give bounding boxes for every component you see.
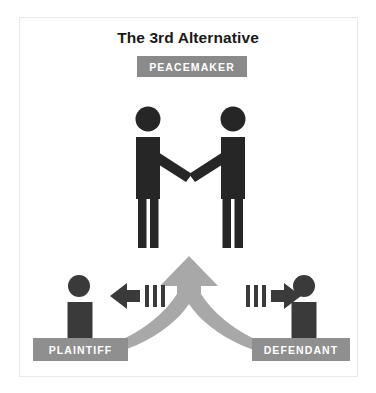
right-motion-line-1 xyxy=(246,285,250,307)
third-alternative-diagram: The 3rd Alternative PEACEMAKER xyxy=(0,0,376,393)
handshake-left-head xyxy=(136,107,161,132)
right-motion-line-2 xyxy=(254,285,258,307)
plaintiff-figure xyxy=(67,275,93,341)
handshake-figures-illustration xyxy=(118,100,263,252)
page-title: The 3rd Alternative xyxy=(0,29,376,47)
left-direction-arrow-icon xyxy=(110,281,166,311)
left-motion-line-3 xyxy=(161,285,165,307)
handshake-right-leg-far xyxy=(235,199,244,248)
right-motion-line-3 xyxy=(262,285,266,307)
handshake-right-leg-near xyxy=(223,199,232,248)
left-motion-line-2 xyxy=(153,285,157,307)
handshake-left-leg-far xyxy=(138,199,147,248)
plaintiff-head xyxy=(68,275,90,297)
plaintiff-body xyxy=(68,302,93,341)
defendant-label: DEFENDANT xyxy=(252,338,350,361)
handshake-left-leg-near xyxy=(150,199,159,248)
plaintiff-label: PLAINTIFF xyxy=(33,338,128,361)
right-direction-arrow-icon xyxy=(245,281,301,311)
right-arrowhead xyxy=(271,283,301,309)
handshake-left-torso xyxy=(136,137,160,199)
handshake-right-head xyxy=(221,107,246,132)
handshake-right-torso xyxy=(221,137,245,199)
peacemaker-badge: PEACEMAKER xyxy=(137,56,247,77)
left-motion-line-1 xyxy=(145,285,149,307)
left-arrowhead xyxy=(110,283,140,309)
